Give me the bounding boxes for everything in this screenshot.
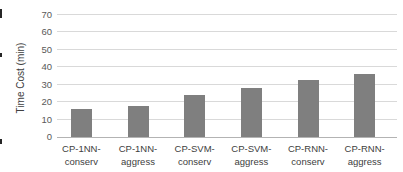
y-tick-label-60: 60 [30,27,52,37]
y-tick-label-40: 40 [30,62,52,72]
gridline-y-40 [57,66,397,67]
x-label-CP-RNN-aggress: CP-RNN-aggress [336,142,393,168]
y-tick-label-0: 0 [30,132,52,142]
gridline-y-30 [57,84,397,85]
y-axis-title: Time Cost (min) [15,43,26,114]
left-edge-text-fragment-3 [0,139,2,144]
x-label-CP-1NN-conserv: CP-1NN-conserv [53,142,110,168]
left-edge-text-fragment-2 [0,53,2,57]
x-axis-line [57,137,397,138]
gridline-y-10 [57,119,397,120]
y-tick-label-20: 20 [30,97,52,107]
x-label-CP-SVM-aggress: CP-SVM-aggress [223,142,280,168]
bar-CP-RNN-conserv [298,80,319,138]
x-label-CP-1NN-aggress: CP-1NN-aggress [110,142,167,168]
left-edge-text-fragment-1 [0,9,2,18]
y-tick-label-50: 50 [30,45,52,55]
y-tick-label-70: 70 [30,10,52,20]
bar-CP-1NN-conserv [71,109,92,137]
gridline-y-50 [57,49,397,50]
bar-CP-1NN-aggress [128,106,149,137]
bar-CP-SVM-conserv [184,95,205,137]
bar-CP-RNN-aggress [354,74,375,137]
x-label-CP-SVM-conserv: CP-SVM-conserv [166,142,223,168]
gridline-y-20 [57,101,397,102]
gridline-y-70 [57,14,397,15]
y-tick-label-10: 10 [30,115,52,125]
y-tick-label-30: 30 [30,80,52,90]
plot-area [57,15,397,137]
bar-chart-figure: Time Cost (min) 010203040506070 CP-1NN-c… [0,0,403,172]
bar-CP-SVM-aggress [241,88,262,137]
x-label-CP-RNN-conserv: CP-RNN-conserv [280,142,337,168]
gridline-y-60 [57,31,397,32]
